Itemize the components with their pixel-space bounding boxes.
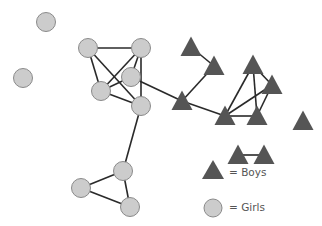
boy-node-icon <box>243 55 264 74</box>
girl-node-icon <box>37 13 56 32</box>
legend-boys-label: = Boys <box>229 166 266 178</box>
legend <box>202 160 224 217</box>
boy-node-icon <box>293 111 314 130</box>
legend-boy-triangle-icon <box>202 160 224 179</box>
girl-node-icon <box>132 39 151 58</box>
network-edges <box>81 47 272 207</box>
girl-node-icon <box>14 69 33 88</box>
girl-node-icon <box>79 39 98 58</box>
girl-node-icon <box>122 68 141 87</box>
social-network-diagram <box>0 0 322 226</box>
edge-g7-g8 <box>123 106 141 171</box>
network-nodes <box>14 13 314 217</box>
boy-node-icon <box>204 56 225 75</box>
girl-node-icon <box>72 179 91 198</box>
girl-node-icon <box>92 82 111 101</box>
legend-girls-label: = Girls <box>229 201 265 213</box>
girl-node-icon <box>114 162 133 181</box>
boy-node-icon <box>181 37 202 56</box>
girl-node-icon <box>121 198 140 217</box>
girl-node-icon <box>132 97 151 116</box>
legend-girl-circle-icon <box>204 199 222 217</box>
